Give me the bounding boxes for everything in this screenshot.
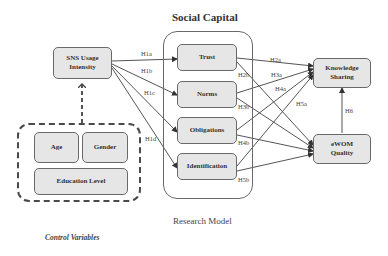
node-trust: Trust (177, 44, 237, 71)
figure-caption: Research Model (173, 216, 232, 226)
control-variables-caption: Control Variables (45, 233, 99, 242)
node-gender: Gender (82, 132, 128, 163)
node-label: Identification (187, 162, 227, 171)
label-h2a: H2a (270, 56, 281, 63)
node-norms: Norms (177, 81, 237, 108)
node-label: Norms (197, 90, 217, 99)
node-label: Age (51, 143, 63, 152)
node-age: Age (34, 132, 79, 163)
node-identification: Identification (177, 153, 237, 180)
node-label: SNS Usage (66, 54, 98, 62)
social-capital-title: Social Capital (172, 11, 238, 23)
label-h1b: H1b (141, 67, 152, 74)
node-label: Knowledge (325, 64, 358, 72)
node-label: Quality (331, 149, 354, 157)
label-h1d: H1d (145, 135, 156, 142)
node-label: Sharing (330, 73, 354, 81)
node-ewom-quality: eWOMQuality (313, 134, 371, 164)
node-label: eWOM (331, 140, 353, 148)
node-sns-usage-intensity: SNS UsageIntensity (53, 47, 112, 79)
label-h2b: H2b (238, 71, 249, 78)
label-h1c: H1c (144, 89, 155, 96)
label-h3a: H3a (271, 71, 282, 78)
label-h5b: H5b (238, 176, 249, 183)
label-h4b: H4b (238, 139, 249, 146)
node-label: Education Level (57, 177, 106, 186)
label-h5a: H5a (296, 100, 307, 107)
label-h6: H6 (345, 107, 353, 114)
node-knowledge-sharing: KnowledgeSharing (313, 58, 371, 88)
label-h4a: H4a (275, 85, 286, 92)
node-obligations: Obligations (177, 117, 237, 144)
label-h3b: H3b (238, 103, 249, 110)
node-label: Trust (199, 53, 215, 62)
node-label: Intensity (69, 63, 95, 71)
label-h1a: H1a (141, 50, 152, 57)
node-label: Gender (94, 143, 117, 152)
node-education-level: Education Level (34, 168, 128, 195)
node-label: Obligations (190, 126, 225, 135)
